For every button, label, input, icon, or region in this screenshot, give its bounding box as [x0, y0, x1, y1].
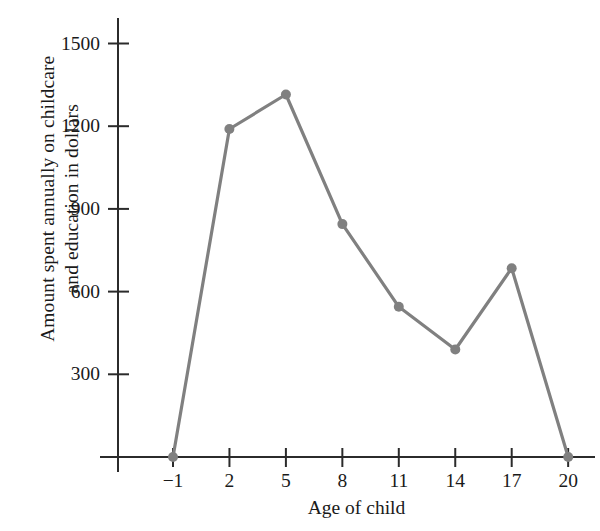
x-tick-label: 17 — [502, 470, 522, 492]
data-point-marker — [507, 263, 517, 273]
x-tick-label: 5 — [281, 470, 291, 492]
line-chart-figure: Amount spent annually on childcare and e… — [0, 0, 600, 531]
x-tick-label: 14 — [446, 470, 466, 492]
x-tick-label: 8 — [337, 470, 347, 492]
y-tick-label: 1200 — [10, 115, 100, 137]
data-point-marker — [394, 302, 404, 312]
data-point-marker — [281, 90, 291, 100]
x-tick-label: −1 — [163, 470, 184, 492]
x-tick-label: 20 — [558, 470, 578, 492]
axes — [100, 18, 595, 472]
data-series-line — [173, 95, 568, 458]
data-point-marker — [450, 345, 460, 355]
x-tick-label: 11 — [389, 470, 408, 492]
x-tick-label: 2 — [225, 470, 235, 492]
chart-plot-area — [0, 0, 600, 531]
y-tick-label: 900 — [10, 198, 100, 220]
y-tick-label: 1500 — [10, 33, 100, 55]
x-axis-title: Age of child — [118, 497, 595, 519]
y-tick-label: 600 — [10, 281, 100, 303]
data-point-marker — [168, 452, 178, 462]
data-point-marker — [337, 219, 347, 229]
y-tick-label: 300 — [10, 363, 100, 385]
data-point-marker — [224, 124, 234, 134]
data-point-marker — [563, 452, 573, 462]
